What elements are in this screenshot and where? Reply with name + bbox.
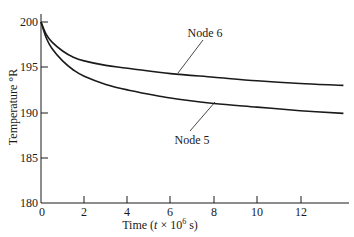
y-axis-title: Temperature °R	[6, 69, 20, 145]
y-tick-label: 180	[20, 196, 38, 210]
node-6-leader-line	[178, 40, 203, 73]
x-tick-label: 8	[211, 205, 217, 219]
y-tick-label: 190	[20, 106, 38, 120]
chart-canvas: 200 195 190 185 180 0 2 4 6 8 10 12 Time…	[0, 0, 354, 237]
y-tick-label: 195	[20, 60, 38, 74]
y-ticks: 200 195 190 185 180	[20, 15, 48, 210]
x-axis-title: Time (t × 106 s)	[122, 217, 198, 232]
x-tick-label: 0	[39, 205, 45, 219]
x-tick-label: 12	[295, 205, 307, 219]
x-ticks: 0 2 4 6 8 10 12	[39, 196, 307, 219]
x-tick-label: 2	[81, 205, 87, 219]
node-6-label: Node 6	[188, 26, 223, 40]
node-5-label: Node 5	[175, 133, 210, 147]
x-tick-label: 4	[124, 205, 130, 219]
y-tick-label: 200	[20, 15, 38, 29]
y-tick-label: 185	[20, 151, 38, 165]
node-5-leader-line	[190, 102, 215, 131]
x-tick-label: 6	[167, 205, 173, 219]
x-tick-label: 10	[251, 205, 263, 219]
